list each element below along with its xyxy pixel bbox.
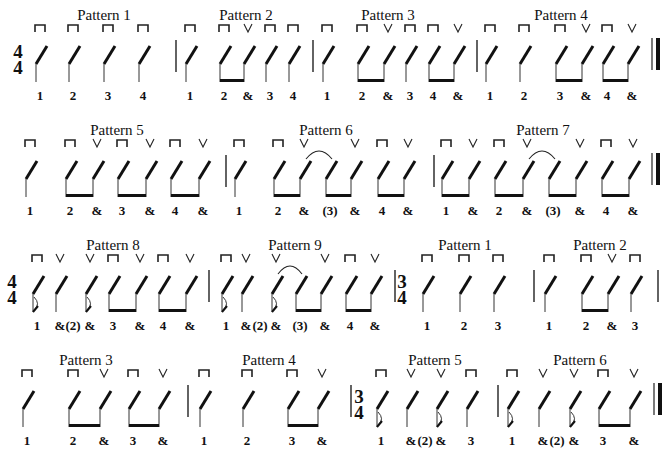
beat: 4 bbox=[345, 255, 357, 333]
beat-count: 3 bbox=[600, 433, 607, 448]
slash-notehead-icon bbox=[603, 46, 614, 64]
beat-count: & bbox=[453, 88, 464, 103]
slash-notehead-icon bbox=[378, 161, 389, 179]
slash-notehead-icon bbox=[346, 276, 357, 294]
pattern-title: Pattern 1 bbox=[77, 7, 131, 23]
upstroke-icon bbox=[146, 139, 154, 147]
beam bbox=[129, 424, 159, 427]
beat: 2 bbox=[68, 370, 80, 448]
beam bbox=[549, 194, 576, 197]
beam bbox=[288, 424, 318, 427]
slash-notehead-icon bbox=[244, 46, 255, 64]
slash-notehead-icon bbox=[495, 161, 506, 179]
beat-count: & bbox=[158, 433, 169, 448]
slash-notehead-icon bbox=[631, 276, 642, 294]
beat-count: & bbox=[581, 88, 592, 103]
upstroke-icon bbox=[351, 139, 359, 147]
beam bbox=[159, 309, 186, 312]
beat-count: 2 bbox=[221, 88, 228, 103]
upstroke-icon bbox=[628, 24, 636, 32]
beat: & bbox=[581, 24, 593, 103]
slash-notehead-icon bbox=[469, 161, 480, 179]
downstroke-icon bbox=[519, 25, 529, 32]
slash-notehead-icon bbox=[26, 161, 37, 179]
beat-count: (2) bbox=[65, 318, 80, 333]
beat: 2 bbox=[494, 140, 506, 218]
beat: & bbox=[92, 139, 104, 218]
beam bbox=[296, 309, 321, 312]
slash-notehead-icon bbox=[629, 161, 640, 179]
beat-count: 2 bbox=[583, 318, 590, 333]
beat: 1 bbox=[507, 370, 519, 448]
beat-count: & bbox=[569, 433, 580, 448]
upstroke-icon bbox=[523, 139, 531, 147]
beat: & bbox=[243, 24, 255, 103]
slash-notehead-icon bbox=[56, 276, 67, 294]
slash-notehead-icon bbox=[23, 391, 34, 409]
upstroke-icon bbox=[454, 24, 462, 32]
slash-notehead-icon bbox=[171, 161, 182, 179]
beat-count: & bbox=[185, 318, 196, 333]
beat-count: & bbox=[99, 433, 110, 448]
beat-count: 3 bbox=[110, 318, 117, 333]
slash-notehead-icon bbox=[200, 391, 211, 409]
downstroke-icon bbox=[219, 25, 229, 32]
beat: 3 bbox=[108, 255, 120, 333]
tie-icon bbox=[278, 266, 302, 274]
pattern: Pattern 81&(2)&3&4& bbox=[32, 237, 197, 333]
upstroke-icon bbox=[86, 254, 94, 262]
beat-count: & bbox=[468, 203, 479, 218]
beat: 4 bbox=[158, 255, 170, 333]
pattern: Pattern 91&(2)&(3)&4& bbox=[221, 237, 382, 333]
beat-count: 3 bbox=[130, 433, 137, 448]
beat: & bbox=[145, 139, 157, 218]
beat: 2 bbox=[68, 25, 80, 103]
beat-count: 4 bbox=[140, 88, 147, 103]
pattern-title: Pattern 9 bbox=[268, 237, 322, 253]
slash-notehead-icon bbox=[486, 46, 497, 64]
downstroke-icon bbox=[287, 370, 297, 377]
downstroke-icon bbox=[199, 370, 209, 377]
beat-count: & bbox=[629, 433, 640, 448]
beat-count: & bbox=[406, 433, 417, 448]
slash-notehead-icon bbox=[545, 276, 556, 294]
downstroke-icon bbox=[485, 25, 495, 32]
downstroke-icon bbox=[581, 255, 591, 262]
pattern: Pattern 212&3 bbox=[544, 237, 642, 333]
beat-count: (2) bbox=[417, 433, 432, 448]
beat: & bbox=[198, 139, 210, 218]
beat: & bbox=[158, 369, 170, 448]
beat: & bbox=[575, 139, 587, 218]
beat: 1 bbox=[441, 140, 453, 218]
downstroke-icon bbox=[493, 255, 503, 262]
final-barline-thick bbox=[656, 153, 660, 185]
downstroke-icon bbox=[288, 25, 298, 32]
upstroke-icon bbox=[242, 254, 250, 262]
beat-count: 3 bbox=[267, 88, 274, 103]
downstroke-icon bbox=[345, 255, 355, 262]
beat-count: 4 bbox=[603, 203, 610, 218]
slash-notehead-icon bbox=[454, 46, 465, 64]
beat-count: 1 bbox=[223, 318, 230, 333]
row-1: 44Pattern 11234Pattern 212&34Pattern 312… bbox=[13, 7, 660, 103]
downstroke-icon bbox=[128, 370, 138, 377]
beat-count: 4 bbox=[604, 88, 611, 103]
pattern: Pattern 4123&4& bbox=[485, 7, 639, 103]
slash-notehead-icon bbox=[235, 161, 246, 179]
beat-count: & bbox=[299, 203, 310, 218]
beat-count: & bbox=[383, 88, 394, 103]
slash-notehead-icon bbox=[272, 306, 277, 312]
beat-count: & bbox=[145, 203, 156, 218]
beam bbox=[358, 79, 384, 82]
slash-notehead-icon bbox=[404, 161, 415, 179]
beat: 3 bbox=[287, 370, 299, 448]
beat-count: & bbox=[85, 318, 96, 333]
slash-notehead-icon bbox=[508, 391, 519, 409]
upstroke-icon bbox=[93, 139, 101, 147]
beat: 3 bbox=[630, 255, 642, 333]
downstroke-icon bbox=[265, 25, 275, 32]
downstroke-icon bbox=[234, 140, 244, 147]
beat-count: 3 bbox=[557, 88, 564, 103]
beat-count: 1 bbox=[443, 203, 450, 218]
beat-count: (3) bbox=[545, 203, 560, 218]
